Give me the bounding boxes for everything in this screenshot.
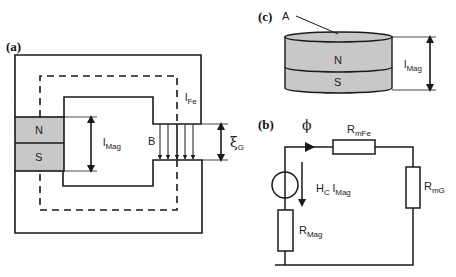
- magnet-north-label: N: [35, 125, 43, 136]
- figure-drawing: [0, 0, 456, 277]
- cyl-north-label: N: [334, 55, 342, 66]
- area-label: A: [282, 11, 289, 22]
- panel-b-label: (b): [258, 118, 274, 131]
- magnet-south-label: S: [35, 152, 42, 163]
- source-label: HC lMag: [316, 183, 351, 194]
- rmag-label: RMag: [299, 225, 323, 236]
- lfe-label: lFe: [185, 92, 197, 103]
- flux-density-arrows: [160, 124, 193, 159]
- lmag-label: lMag: [103, 137, 121, 148]
- resistor-rmfe: [333, 140, 375, 154]
- magnetic-circuit-figure: (a) N S lMag lFe B ξG (c) A N S lMag (b)…: [0, 0, 456, 277]
- panel-a-label: (a): [6, 40, 21, 53]
- flux-density-label: B: [148, 136, 155, 147]
- flux-symbol: ϕ: [302, 118, 312, 132]
- flux-direction-arrow: [305, 142, 315, 152]
- panel-c-label: (c): [258, 10, 272, 23]
- panel-b-circuit: [272, 140, 420, 265]
- lmag-dimension: [64, 117, 97, 171]
- resistor-rmg: [406, 167, 420, 208]
- rmg-label: RmG: [424, 181, 445, 192]
- gap-label: ξG: [230, 135, 244, 149]
- cyl-lmag-label: lMag: [404, 59, 422, 70]
- cyl-south-label: S: [334, 77, 341, 88]
- resistor-rmag: [278, 210, 293, 251]
- rmfe-label: RmFe: [347, 124, 371, 135]
